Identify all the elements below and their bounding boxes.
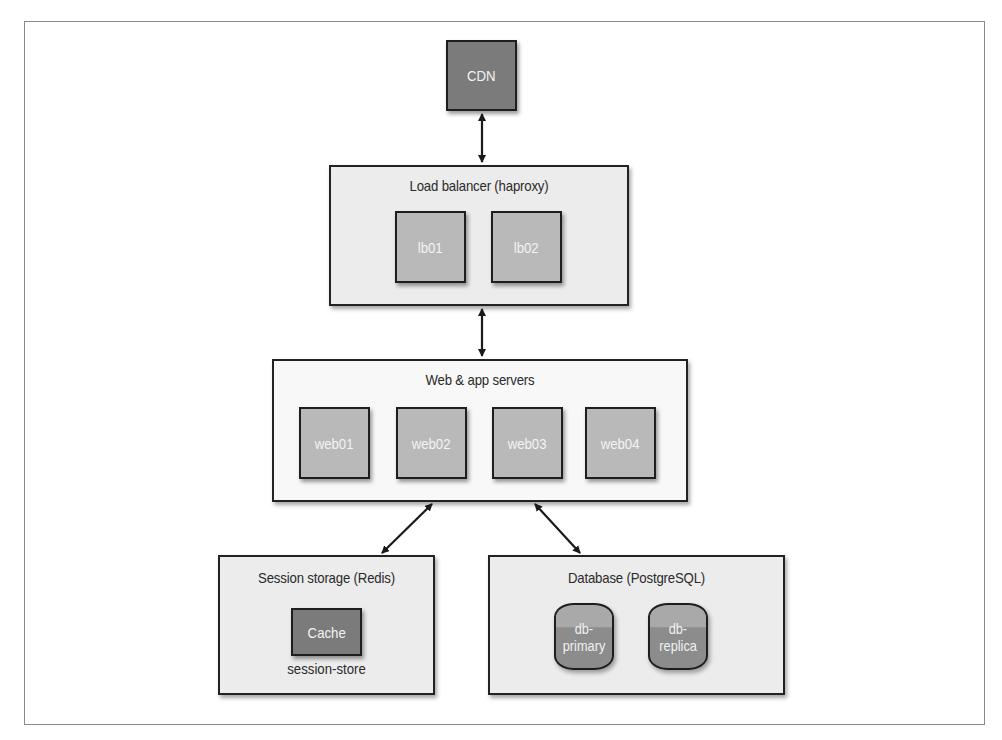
database-group: Database (PostgreSQL) bbox=[488, 555, 785, 695]
cdn-node: CDN bbox=[446, 40, 517, 111]
db-primary-label-line1: db- bbox=[575, 620, 593, 637]
web02-node: web02 bbox=[396, 407, 467, 479]
web01-label: web01 bbox=[315, 435, 354, 452]
web03-node: web03 bbox=[492, 407, 563, 479]
web04-node: web04 bbox=[585, 407, 656, 479]
session-storage-title: Session storage (Redis) bbox=[233, 569, 420, 586]
cache-label: Cache bbox=[307, 624, 345, 641]
lb01-node: lb01 bbox=[395, 211, 466, 283]
db-primary-cylinder-icon: db- primary bbox=[554, 603, 614, 670]
session-store-caption: session-store bbox=[231, 660, 422, 677]
web01-node: web01 bbox=[299, 407, 370, 479]
web04-label: web04 bbox=[601, 435, 640, 452]
cache-node: Cache bbox=[291, 608, 362, 656]
db-replica-cylinder-icon: db- replica bbox=[648, 603, 708, 670]
lb01-label: lb01 bbox=[418, 239, 443, 256]
db-primary-label-line2: primary bbox=[563, 637, 606, 654]
web02-label: web02 bbox=[412, 435, 451, 452]
database-title: Database (PostgreSQL) bbox=[508, 569, 766, 586]
load-balancer-group: Load balancer (haproxy) bbox=[329, 165, 629, 306]
cdn-label: CDN bbox=[467, 67, 496, 84]
web-servers-title: Web & app servers bbox=[299, 371, 662, 388]
db-replica-label-line2: replica bbox=[659, 637, 697, 654]
web03-label: web03 bbox=[508, 435, 547, 452]
load-balancer-title: Load balancer (haproxy) bbox=[349, 177, 609, 194]
lb02-node: lb02 bbox=[491, 211, 562, 283]
db-replica-label-line1: db- bbox=[669, 620, 687, 637]
lb02-label: lb02 bbox=[514, 239, 539, 256]
